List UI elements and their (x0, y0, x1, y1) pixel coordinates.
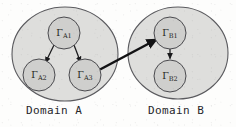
domain-b-caption: Domain B (148, 104, 204, 117)
domain-a-caption: Domain A (26, 104, 82, 117)
node-a2-sub: A2 (37, 74, 47, 82)
figure-canvas: ΓA1 ΓA2 ΓA3 ΓB1 ΓB2 (0, 0, 236, 127)
node-a3[interactable]: ΓA3 (69, 59, 101, 91)
node-b1-sub: B1 (169, 32, 178, 40)
node-a1[interactable]: ΓA1 (48, 17, 80, 49)
node-a2[interactable]: ΓA2 (23, 59, 55, 91)
node-a3-sub: A3 (83, 74, 93, 82)
node-b2[interactable]: ΓB2 (154, 60, 186, 92)
node-a1-sub: A1 (62, 32, 72, 40)
node-b1[interactable]: ΓB1 (154, 17, 186, 49)
node-b2-sub: B2 (169, 75, 178, 83)
